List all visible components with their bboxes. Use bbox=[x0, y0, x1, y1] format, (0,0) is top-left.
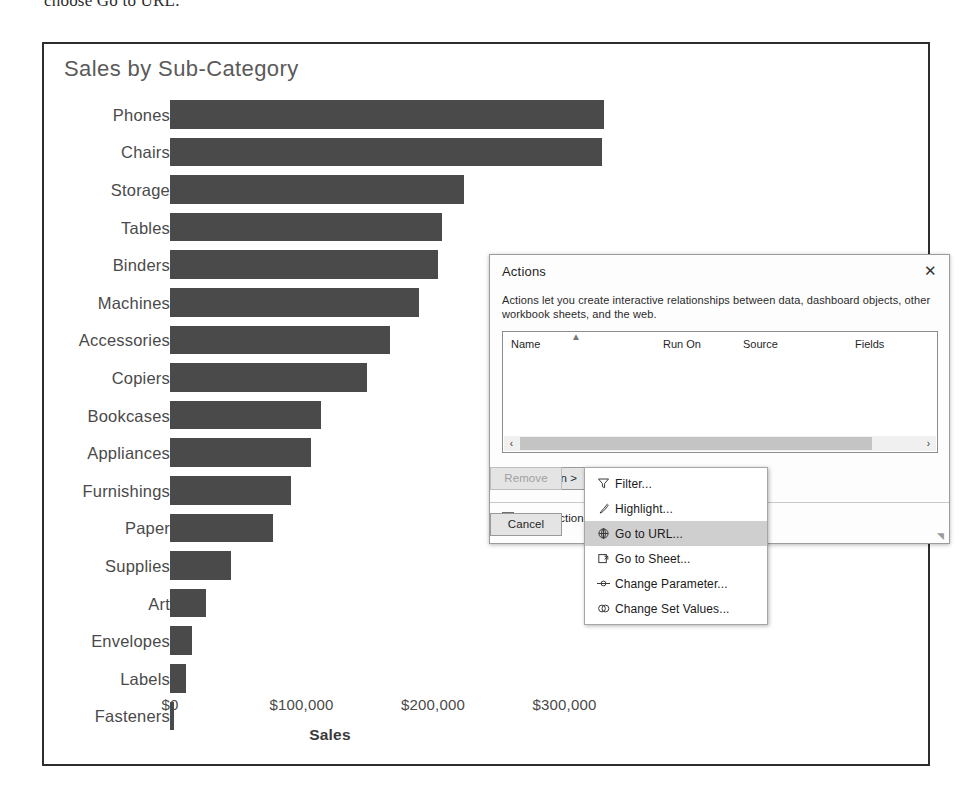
bar-row: Phones bbox=[44, 96, 604, 134]
menu-item-label: Change Set Values... bbox=[615, 602, 730, 616]
add-action-context-menu: Filter...Highlight...Go to URL...Go to S… bbox=[584, 467, 768, 625]
bar-row: Supplies bbox=[44, 547, 604, 585]
bar-category-label: Storage bbox=[50, 180, 170, 199]
menu-item-label: Go to Sheet... bbox=[615, 552, 690, 566]
bar-row: Chairs bbox=[44, 134, 604, 172]
bar[interactable] bbox=[170, 138, 602, 167]
menu-item-label: Change Parameter... bbox=[615, 577, 728, 591]
figure-frame: Sales by Sub-Category PhonesChairsStorag… bbox=[42, 42, 930, 766]
x-axis-title: Sales bbox=[170, 726, 490, 744]
scroll-left-arrow-icon[interactable]: ‹ bbox=[504, 436, 519, 451]
parameter-slider-icon bbox=[591, 577, 615, 590]
actions-list-table[interactable]: ▲ Name Run On Source Fields ‹ › bbox=[502, 331, 938, 453]
column-header-source[interactable]: Source bbox=[743, 338, 778, 350]
bar-category-label-wrap: Envelopes bbox=[44, 622, 170, 660]
bar[interactable] bbox=[170, 363, 367, 392]
sheet-arrow-icon bbox=[591, 552, 615, 565]
bar[interactable] bbox=[170, 175, 464, 204]
bar[interactable] bbox=[170, 551, 231, 580]
bar-category-label: Supplies bbox=[50, 556, 170, 575]
bar-category-label: Art bbox=[50, 594, 170, 613]
bar-category-label-wrap: Furnishings bbox=[44, 472, 170, 510]
scrollbar-thumb[interactable] bbox=[520, 437, 872, 450]
bar[interactable] bbox=[170, 476, 291, 505]
bar-row: Labels bbox=[44, 660, 604, 698]
bar-category-label: Tables bbox=[50, 218, 170, 237]
bar-category-label-wrap: Appliances bbox=[44, 434, 170, 472]
menu-item-change-set-values[interactable]: Change Set Values... bbox=[585, 596, 767, 621]
bar-category-label-wrap: Tables bbox=[44, 209, 170, 247]
scroll-right-arrow-icon[interactable]: › bbox=[921, 436, 936, 451]
bar-category-label-wrap: Chairs bbox=[44, 134, 170, 172]
column-header-run-on[interactable]: Run On bbox=[663, 338, 701, 350]
bar-row: Tables bbox=[44, 209, 604, 247]
bar-category-label: Fasteners bbox=[50, 707, 170, 726]
bar-category-label-wrap: Accessories bbox=[44, 322, 170, 360]
bar-category-label-wrap: Binders bbox=[44, 246, 170, 284]
bar-category-label: Furnishings bbox=[50, 481, 170, 500]
bar[interactable] bbox=[170, 288, 419, 317]
bar[interactable] bbox=[170, 438, 311, 467]
bar-category-label: Copiers bbox=[50, 368, 170, 387]
column-header-fields[interactable]: Fields bbox=[855, 338, 884, 350]
bar-category-label-wrap: Phones bbox=[44, 96, 170, 134]
bar-category-label-wrap: Machines bbox=[44, 284, 170, 322]
bar-row: Art bbox=[44, 585, 604, 623]
bar[interactable] bbox=[170, 401, 321, 430]
x-axis-tick-label: $100,000 bbox=[269, 696, 333, 713]
bar-category-label-wrap: Bookcases bbox=[44, 397, 170, 435]
bar-row: Envelopes bbox=[44, 622, 604, 660]
resize-grip-icon[interactable]: ◥ bbox=[937, 532, 946, 541]
bar[interactable] bbox=[170, 514, 273, 543]
bar-track bbox=[170, 622, 604, 660]
horizontal-scrollbar[interactable]: ‹ › bbox=[504, 436, 936, 451]
bar-category-label-wrap: Storage bbox=[44, 171, 170, 209]
bar[interactable] bbox=[170, 664, 186, 693]
bar[interactable] bbox=[170, 213, 442, 242]
bar-category-label: Envelopes bbox=[50, 632, 170, 651]
x-axis: Sales $0$100,000$200,000$300,000 bbox=[170, 696, 604, 752]
bar-category-label: Chairs bbox=[50, 143, 170, 162]
page-caption-text: choose Go to URL. bbox=[44, 0, 180, 11]
menu-item-label: Filter... bbox=[615, 477, 652, 491]
bar-category-label-wrap: Art bbox=[44, 585, 170, 623]
bar-category-label-wrap: Copiers bbox=[44, 359, 170, 397]
menu-item-go-to-sheet[interactable]: Go to Sheet... bbox=[585, 546, 767, 571]
x-axis-tick-label: $0 bbox=[161, 696, 178, 713]
bar-category-label-wrap: Fasteners bbox=[44, 698, 170, 736]
chart-title: Sales by Sub-Category bbox=[64, 56, 299, 82]
menu-item-label: Highlight... bbox=[615, 502, 673, 516]
remove-button[interactable]: Remove bbox=[490, 467, 562, 490]
bar-track bbox=[170, 547, 604, 585]
cancel-button[interactable]: Cancel bbox=[490, 513, 562, 536]
dialog-titlebar: Actions ✕ bbox=[490, 255, 949, 289]
close-icon[interactable]: ✕ bbox=[919, 261, 941, 281]
bar[interactable] bbox=[170, 100, 604, 129]
menu-item-go-to-url[interactable]: Go to URL... bbox=[585, 521, 767, 546]
bar-category-label: Paper bbox=[50, 519, 170, 538]
bar-category-label: Binders bbox=[50, 256, 170, 275]
bar[interactable] bbox=[170, 326, 390, 355]
table-header-row: ▲ Name Run On Source Fields bbox=[503, 332, 937, 356]
set-values-icon bbox=[591, 602, 615, 615]
bar[interactable] bbox=[170, 589, 206, 618]
bar-row: Storage bbox=[44, 171, 604, 209]
bar-category-label-wrap: Labels bbox=[44, 660, 170, 698]
menu-item-filter[interactable]: Filter... bbox=[585, 471, 767, 496]
bar-category-label-wrap: Supplies bbox=[44, 547, 170, 585]
dialog-title: Actions bbox=[502, 264, 546, 279]
bar[interactable] bbox=[170, 626, 192, 655]
bar-track bbox=[170, 585, 604, 623]
menu-item-highlight[interactable]: Highlight... bbox=[585, 496, 767, 521]
x-axis-tick-label: $300,000 bbox=[532, 696, 596, 713]
bar[interactable] bbox=[170, 250, 438, 279]
bar-category-label: Phones bbox=[50, 105, 170, 124]
bar-category-label: Machines bbox=[50, 293, 170, 312]
bar-track bbox=[170, 660, 604, 698]
bar-category-label: Appliances bbox=[50, 444, 170, 463]
column-header-name[interactable]: Name bbox=[511, 338, 540, 350]
bar-category-label: Bookcases bbox=[50, 406, 170, 425]
menu-item-change-parameter[interactable]: Change Parameter... bbox=[585, 571, 767, 596]
menu-item-label: Go to URL... bbox=[615, 527, 683, 541]
sort-ascending-icon: ▲ bbox=[571, 331, 581, 342]
